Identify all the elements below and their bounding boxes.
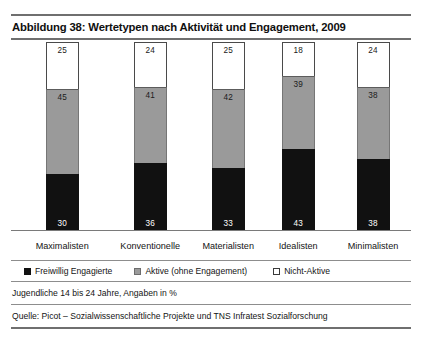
stacked-bar: 254233 — [212, 42, 245, 230]
bars-container: 254530244136254233183943243838 — [11, 42, 411, 230]
segment-nicht-aktive: 25 — [212, 42, 245, 89]
segment-value-label: 25 — [47, 46, 78, 55]
legend-item: Freiwillig Engagierte — [24, 266, 112, 276]
stacked-bar: 254530 — [46, 42, 79, 230]
segment-aktive: 39 — [282, 76, 315, 149]
page-title: Abbildung 38: Wertetypen nach Aktivität … — [11, 16, 411, 38]
segment-nicht-aktive: 25 — [46, 42, 79, 89]
segment-value-label: 18 — [283, 46, 314, 55]
figure-bottom-divider — [11, 327, 411, 329]
segment-value-label: 24 — [358, 46, 389, 55]
white-square-icon — [273, 268, 280, 275]
segment-value-label: 36 — [134, 219, 167, 228]
segment-nicht-aktive: 24 — [357, 42, 390, 87]
segment-value-label: 30 — [46, 219, 79, 228]
segment-freiwillig-engagierte: 33 — [212, 168, 245, 230]
legend-item: Aktive (ohne Engagement) — [134, 266, 247, 276]
category-label: Maximalisten — [36, 241, 89, 251]
segment-freiwillig-engagierte: 43 — [282, 149, 315, 230]
legend-item-label: Freiwillig Engagierte — [35, 266, 112, 276]
segment-value-label: 43 — [282, 219, 315, 228]
segment-value-label: 38 — [358, 91, 389, 100]
segment-value-label: 38 — [357, 219, 390, 228]
stacked-bar: 244136 — [134, 42, 167, 230]
black-square-icon — [24, 268, 31, 275]
segment-nicht-aktive: 18 — [282, 42, 315, 76]
category-label: Materialisten — [202, 241, 254, 251]
segment-aktive: 45 — [46, 89, 79, 174]
segment-value-label: 42 — [213, 93, 244, 102]
segment-value-label: 45 — [47, 93, 78, 102]
chart-legend: Freiwillig EngagierteAktive (ohne Engage… — [11, 261, 411, 281]
legend-item: Nicht-Aktive — [273, 266, 330, 276]
gray-square-icon — [134, 268, 141, 275]
segment-value-label: 41 — [135, 91, 166, 100]
segment-aktive: 41 — [134, 87, 167, 163]
segment-value-label: 33 — [212, 219, 245, 228]
title-bottom-divider — [11, 38, 411, 40]
chart-source: Quelle: Picot – Sozialwissenschaftliche … — [11, 305, 411, 327]
segment-freiwillig-engagierte: 36 — [134, 163, 167, 230]
segment-nicht-aktive: 24 — [134, 42, 167, 87]
stacked-bar: 183943 — [282, 42, 315, 230]
segment-value-label: 24 — [135, 46, 166, 55]
plot-area: 254530244136254233183943243838 — [11, 42, 411, 238]
figure-container: Abbildung 38: Wertetypen nach Aktivität … — [0, 14, 422, 347]
segment-aktive: 38 — [357, 87, 390, 158]
segment-value-label: 39 — [283, 80, 314, 89]
segment-value-label: 25 — [213, 46, 244, 55]
segment-freiwillig-engagierte: 30 — [46, 174, 79, 230]
segment-aktive: 42 — [212, 89, 245, 168]
legend-item-label: Nicht-Aktive — [284, 266, 330, 276]
stacked-bar: 243838 — [357, 42, 390, 230]
category-axis-labels: MaximalistenKonventionelleMaterialistenI… — [11, 241, 411, 257]
category-label: Konventionelle — [120, 241, 180, 251]
category-label: Idealisten — [279, 241, 318, 251]
segment-freiwillig-engagierte: 38 — [357, 159, 390, 230]
x-axis-line — [11, 230, 411, 231]
category-label: Minimalisten — [348, 241, 399, 251]
chart-note: Jugendliche 14 bis 24 Jahre, Angaben in … — [11, 282, 411, 304]
legend-item-label: Aktive (ohne Engagement) — [145, 266, 247, 276]
